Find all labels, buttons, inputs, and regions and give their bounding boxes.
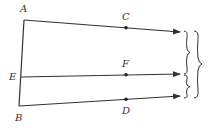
label-e: E: [8, 71, 17, 82]
brace-outer-icon: [194, 31, 202, 98]
ray-bd: [19, 96, 180, 106]
brace-lower-icon: [184, 75, 190, 98]
segment-ab: [19, 20, 24, 106]
point-c: [124, 26, 128, 30]
label-a: A: [19, 3, 27, 14]
label-f: F: [121, 58, 130, 69]
label-b: B: [14, 112, 22, 123]
geometry-diagram: A E B C F D: [0, 0, 214, 128]
label-c: C: [122, 11, 130, 22]
ray-ac: [24, 20, 180, 32]
brace-upper-icon: [184, 31, 190, 74]
point-d: [124, 98, 128, 102]
point-f: [124, 73, 128, 77]
label-d: D: [121, 105, 130, 116]
ray-ef: [21, 74, 180, 77]
